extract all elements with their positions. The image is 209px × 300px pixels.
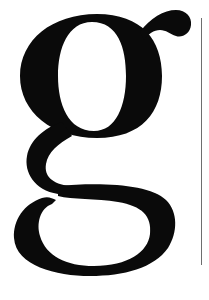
serif-letter-g [0,0,209,300]
vertical-divider-line [201,18,202,265]
